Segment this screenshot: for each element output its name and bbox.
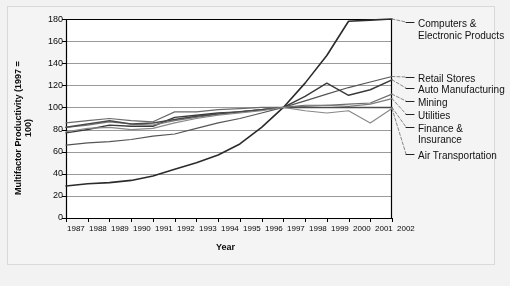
y-axis-title: Multifactor Productivity (1997 = 100) bbox=[13, 53, 33, 203]
y-tick-140: 140 bbox=[43, 59, 63, 68]
x-tick-1989: 1989 bbox=[111, 225, 129, 233]
x-tick-1988: 1988 bbox=[89, 225, 107, 233]
x-tick-1991: 1991 bbox=[155, 225, 173, 233]
x-tick-1998: 1998 bbox=[309, 225, 327, 233]
x-tick-1994: 1994 bbox=[221, 225, 239, 233]
x-tick-1992: 1992 bbox=[177, 225, 195, 233]
x-tick-1996: 1996 bbox=[265, 225, 283, 233]
y-tick-180: 180 bbox=[43, 15, 63, 24]
legend-label-air-transportation: Air Transportation bbox=[418, 150, 497, 161]
legend-label-computers-line2: Electronic Products bbox=[418, 30, 504, 41]
y-tick-40: 40 bbox=[43, 169, 63, 178]
x-tick-2000: 2000 bbox=[353, 225, 371, 233]
x-tick-1993: 1993 bbox=[199, 225, 217, 233]
legend-label-utilities: Utilities bbox=[418, 110, 450, 121]
legend-label-mining: Mining bbox=[418, 97, 447, 108]
x-tick-1987: 1987 bbox=[67, 225, 85, 233]
legend-label-retail-stores: Retail Stores bbox=[418, 73, 475, 84]
x-tick-1990: 1990 bbox=[133, 225, 151, 233]
y-tick-120: 120 bbox=[43, 81, 63, 90]
x-tick-1995: 1995 bbox=[243, 225, 261, 233]
x-tick-1997: 1997 bbox=[287, 225, 305, 233]
y-tick-0: 0 bbox=[43, 213, 63, 222]
x-tick-2001: 2001 bbox=[375, 225, 393, 233]
legend-label-finance-line2: Insurance bbox=[418, 134, 462, 145]
y-tick-100: 100 bbox=[43, 103, 63, 112]
x-tick-2002: 2002 bbox=[397, 225, 415, 233]
x-axis-title: Year bbox=[216, 243, 235, 252]
y-tick-80: 80 bbox=[43, 125, 63, 134]
y-tick-160: 160 bbox=[43, 37, 63, 46]
y-tick-60: 60 bbox=[43, 147, 63, 156]
legend-label-computers-line1: Computers & bbox=[418, 18, 476, 29]
x-tick-1999: 1999 bbox=[331, 225, 349, 233]
legend-label-finance-line1: Finance & bbox=[418, 123, 463, 134]
legend-label-auto-manufacturing: Auto Manufacturing bbox=[418, 84, 505, 95]
y-tick-20: 20 bbox=[43, 191, 63, 200]
